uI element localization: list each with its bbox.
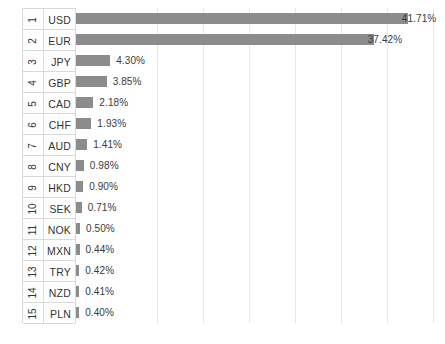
- bar-value-label: 41.71%: [402, 8, 437, 29]
- rank-cell: 1: [23, 9, 44, 30]
- currency-code-label: CHF: [44, 114, 75, 135]
- rank-label: 14: [28, 287, 38, 298]
- bar-value-label: 3.85%: [113, 71, 142, 92]
- table-row: 13TRY: [23, 261, 75, 282]
- table-row: 8CNY: [23, 156, 75, 177]
- currency-code-label: CAD: [44, 93, 75, 114]
- bar-value-label: 1.41%: [93, 134, 122, 155]
- rank-cell: 15: [23, 303, 44, 324]
- rank-cell: 8: [23, 156, 44, 177]
- bar-row: 1.93%: [76, 113, 445, 134]
- currency-code-label: NZD: [44, 282, 75, 303]
- bar-value-label: 1.93%: [97, 113, 126, 134]
- bar-row: 0.50%: [76, 218, 445, 239]
- rank-cell: 13: [23, 261, 44, 282]
- bar: [76, 223, 80, 234]
- rank-label: 12: [28, 245, 38, 256]
- rank-cell: 6: [23, 114, 44, 135]
- rank-cell: 14: [23, 282, 44, 303]
- bar-value-label: 0.41%: [85, 281, 114, 302]
- bar-row: 0.71%: [76, 197, 445, 218]
- currency-code-label: USD: [44, 9, 75, 30]
- bar-value-label: 0.42%: [85, 260, 114, 281]
- rank-label: 1: [28, 17, 38, 23]
- bar: [76, 286, 79, 297]
- bar-value-label: 0.44%: [86, 239, 115, 260]
- bar-row: 0.41%: [76, 281, 445, 302]
- bar-value-label: 0.40%: [85, 302, 114, 323]
- currency-code-label: SEK: [44, 198, 75, 219]
- bar-row: 2.18%: [76, 92, 445, 113]
- rank-label: 6: [28, 122, 38, 128]
- rank-label: 11: [28, 224, 38, 234]
- bar: [76, 181, 83, 192]
- bar-row: 0.44%: [76, 239, 445, 260]
- currency-code-label: MXN: [44, 240, 75, 261]
- table-row: 5CAD: [23, 93, 75, 114]
- category-label-table: 1USD2EUR3JPY4GBP5CAD6CHF7AUD8CNY9HKD10SE…: [22, 8, 76, 323]
- bar-row: 1.41%: [76, 134, 445, 155]
- bar-value-label: 2.18%: [99, 92, 128, 113]
- bars-layer: 41.71%37.42%4.30%3.85%2.18%1.93%1.41%0.9…: [76, 8, 445, 323]
- bar-value-label: 0.98%: [90, 155, 119, 176]
- rank-cell: 4: [23, 72, 44, 93]
- bar: [76, 160, 84, 171]
- currency-code-label: HKD: [44, 177, 75, 198]
- currency-code-label: NOK: [44, 219, 75, 240]
- currency-code-label: EUR: [44, 30, 75, 51]
- rank-cell: 2: [23, 30, 44, 51]
- currency-code-label: TRY: [44, 261, 75, 282]
- bar: [76, 139, 87, 150]
- currency-code-label: GBP: [44, 72, 75, 93]
- rank-label: 8: [28, 164, 38, 170]
- rank-cell: 3: [23, 51, 44, 72]
- rank-label: 7: [28, 143, 38, 149]
- table-row: 3JPY: [23, 51, 75, 72]
- rank-cell: 12: [23, 240, 44, 261]
- bar: [76, 76, 107, 87]
- rank-label: 5: [28, 101, 38, 107]
- table-row: 10SEK: [23, 198, 75, 219]
- rank-cell: 9: [23, 177, 44, 198]
- bar: [76, 55, 110, 66]
- bar: [76, 307, 79, 318]
- currency-code-label: PLN: [44, 303, 75, 324]
- bar-value-label: 0.71%: [88, 197, 117, 218]
- bar-row: 3.85%: [76, 71, 445, 92]
- bar-value-label: 37.42%: [368, 29, 403, 50]
- bar-row: 0.90%: [76, 176, 445, 197]
- rank-cell: 7: [23, 135, 44, 156]
- rank-cell: 11: [23, 219, 44, 240]
- rank-label: 13: [28, 266, 38, 277]
- table-row: 11NOK: [23, 219, 75, 240]
- bar-row: 0.42%: [76, 260, 445, 281]
- bar: [76, 118, 91, 129]
- rank-label: 4: [28, 80, 38, 86]
- bar-row: 0.98%: [76, 155, 445, 176]
- currency-code-label: AUD: [44, 135, 75, 156]
- currency-code-label: JPY: [44, 51, 75, 72]
- bar: [76, 97, 93, 108]
- bar: [76, 244, 80, 255]
- table-row: 7AUD: [23, 135, 75, 156]
- bar-value-label: 0.50%: [86, 218, 115, 239]
- bar-value-label: 4.30%: [116, 50, 145, 71]
- rank-cell: 10: [23, 198, 44, 219]
- bar-chart: 1USD2EUR3JPY4GBP5CAD6CHF7AUD8CNY9HKD10SE…: [0, 0, 445, 344]
- bar: [76, 202, 82, 213]
- table-row: 15PLN: [23, 303, 75, 324]
- table-row: 1USD: [23, 9, 75, 30]
- bar-value-label: 0.90%: [89, 176, 118, 197]
- table-row: 12MXN: [23, 240, 75, 261]
- bar-row: 4.30%: [76, 50, 445, 71]
- currency-code-label: CNY: [44, 156, 75, 177]
- rank-label: 15: [28, 308, 38, 319]
- table-row: 2EUR: [23, 30, 75, 51]
- table-row: 4GBP: [23, 72, 75, 93]
- rank-cell: 5: [23, 93, 44, 114]
- rank-label: 3: [28, 59, 38, 65]
- rank-label: 2: [28, 38, 38, 44]
- bar-row: 41.71%: [76, 8, 445, 29]
- bar: [76, 13, 408, 24]
- bar: [76, 265, 79, 276]
